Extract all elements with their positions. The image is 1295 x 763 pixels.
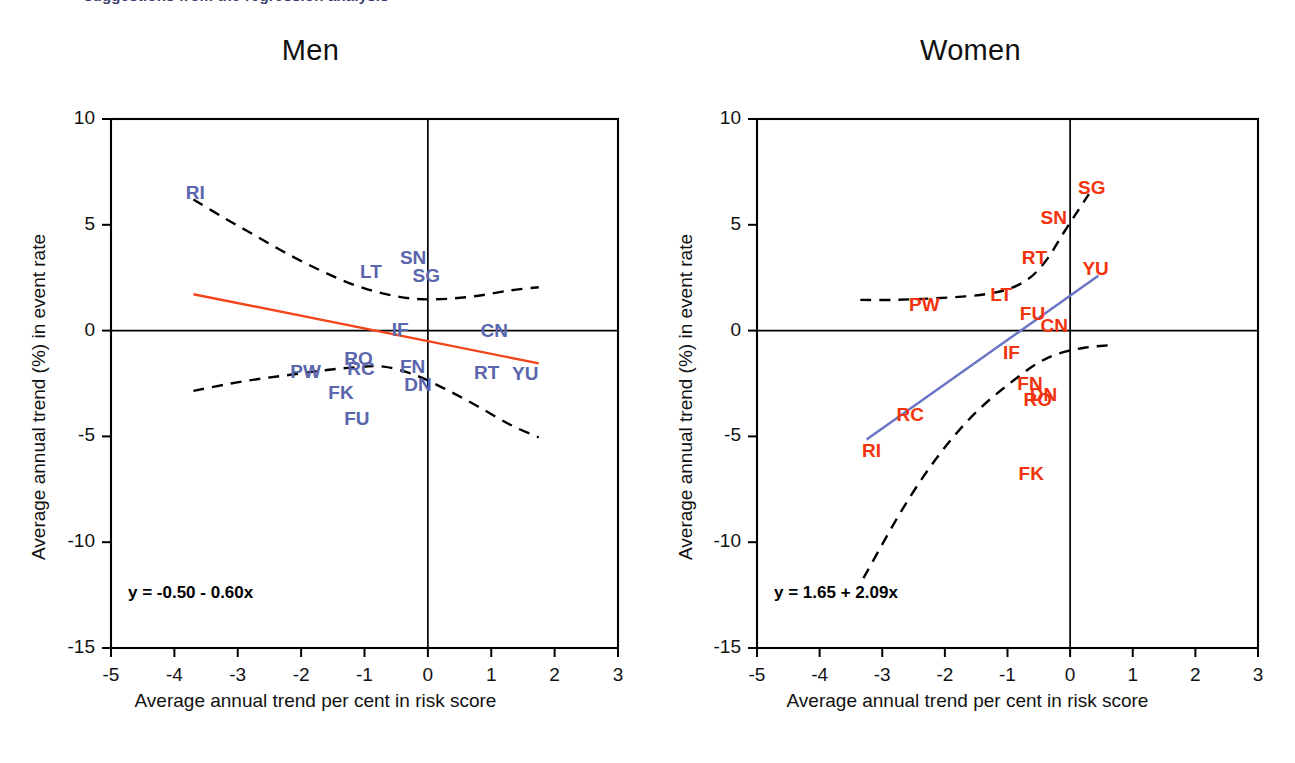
data-point-label-rt: RT — [474, 363, 499, 382]
y-tick-label: -15 — [43, 636, 95, 658]
data-point-label-fk: FK — [1019, 464, 1044, 483]
x-tick-label: -3 — [221, 664, 255, 686]
x-tick-label: 0 — [1053, 664, 1087, 686]
panel-men: Men Average annual trend (%) in event ra… — [0, 0, 647, 763]
x-tick-label: 3 — [601, 664, 635, 686]
y-tick-label: 0 — [689, 319, 741, 341]
data-point-label-sn: SN — [400, 248, 426, 267]
upper-confidence-band — [193, 199, 538, 299]
y-tick-label: 10 — [689, 107, 741, 129]
data-point-label-yu: YU — [1082, 259, 1108, 278]
y-tick-label: -5 — [43, 424, 95, 446]
data-point-label-lt: LT — [990, 285, 1012, 304]
panel-women: Women Average annual trend (%) in event … — [648, 0, 1295, 763]
data-point-label-if: IF — [392, 320, 409, 339]
data-point-label-pw: PW — [290, 362, 321, 381]
data-point-label-yu: YU — [512, 364, 538, 383]
x-tick-label: -1 — [991, 664, 1025, 686]
data-point-label-fu: FU — [344, 409, 369, 428]
data-point-label-rt: RT — [1022, 248, 1047, 267]
y-tick-label: 0 — [43, 319, 95, 341]
x-tick-label: -4 — [157, 664, 191, 686]
x-tick-label: -2 — [928, 664, 962, 686]
lower-confidence-band — [863, 345, 1107, 578]
data-point-label-ri: RI — [862, 441, 881, 460]
plot-canvas-men — [0, 0, 647, 763]
y-tick-label: 5 — [43, 213, 95, 235]
data-point-label-fk: FK — [328, 383, 353, 402]
x-tick-label: -4 — [803, 664, 837, 686]
regression-equation-women: y = 1.65 + 2.09x — [774, 583, 898, 603]
x-axis-label-women: Average annual trend per cent in risk sc… — [644, 690, 1291, 712]
x-axis-label-men: Average annual trend per cent in risk sc… — [0, 690, 639, 712]
x-tick-label: -1 — [348, 664, 382, 686]
x-tick-label: 3 — [1241, 664, 1275, 686]
x-tick-label: -5 — [740, 664, 774, 686]
data-point-label-ri: RI — [186, 183, 205, 202]
y-axis-label-women: Average annual trend (%) in event rate — [675, 234, 697, 560]
y-tick-label: 5 — [689, 213, 741, 235]
x-tick-label: 2 — [1178, 664, 1212, 686]
y-tick-label: -10 — [689, 530, 741, 552]
data-point-label-lt: LT — [360, 262, 382, 281]
x-tick-label: 1 — [474, 664, 508, 686]
x-tick-label: -2 — [284, 664, 318, 686]
y-tick-label: -5 — [689, 424, 741, 446]
x-tick-label: 0 — [411, 664, 445, 686]
data-point-label-rc: RC — [347, 359, 374, 378]
x-tick-label: 2 — [538, 664, 572, 686]
data-point-label-pw: PW — [909, 295, 940, 314]
data-point-label-if: IF — [1003, 343, 1020, 362]
data-point-label-sg: SG — [1078, 178, 1105, 197]
data-point-label-rc: RC — [896, 405, 923, 424]
data-point-label-sn: SN — [1040, 208, 1066, 227]
y-axis-label-men: Average annual trend (%) in event rate — [28, 234, 50, 560]
data-point-label-dn: DN — [404, 375, 431, 394]
x-tick-label: -3 — [865, 664, 899, 686]
y-tick-label: 10 — [43, 107, 95, 129]
x-tick-label: -5 — [94, 664, 128, 686]
data-point-label-fn: FN — [400, 357, 425, 376]
x-tick-label: 1 — [1116, 664, 1150, 686]
data-point-label-cn: CN — [480, 321, 507, 340]
data-point-label-cn: CN — [1040, 316, 1067, 335]
regression-equation-men: y = -0.50 - 0.60x — [128, 583, 253, 603]
y-tick-label: -10 — [43, 530, 95, 552]
plot-canvas-women — [648, 0, 1295, 763]
y-tick-label: -15 — [689, 636, 741, 658]
data-point-label-ro: RO — [1024, 390, 1053, 409]
data-point-label-sg: SG — [413, 266, 440, 285]
